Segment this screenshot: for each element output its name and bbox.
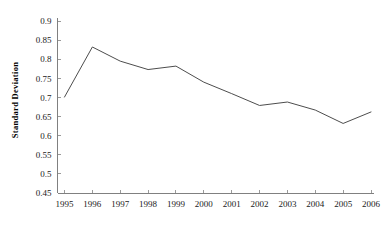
y-axis-tick-label: 0.6 <box>40 131 52 141</box>
y-axis-tick-label: 0.45 <box>36 188 52 198</box>
y-axis-tick-label: 0.5 <box>40 169 52 179</box>
x-axis-tick-label: 1998 <box>139 199 158 209</box>
x-axis-tick-label: 1996 <box>83 199 102 209</box>
y-axis-tick-labels: 0.450.50.550.60.650.70.750.80.850.9 <box>36 16 52 198</box>
y-axis-tick-label: 0.75 <box>36 74 52 84</box>
x-axis-tick-labels: 1995199619971998199920002001200220032004… <box>56 199 381 209</box>
y-axis-tick-label: 0.7 <box>40 93 52 103</box>
x-axis-tick-label: 1995 <box>56 199 75 209</box>
y-axis-tick-label: 0.85 <box>36 35 52 45</box>
y-axis-tick-label: 0.65 <box>36 112 52 122</box>
chart-figure: Standard Deviation 0.450.50.550.60.650.7… <box>0 0 384 226</box>
line-chart-plot: 0.450.50.550.60.650.70.750.80.850.9 1995… <box>0 0 384 226</box>
x-axis-tick-label: 1997 <box>111 199 130 209</box>
x-axis-tick-label: 1999 <box>167 199 186 209</box>
x-axis-tick-label: 2006 <box>362 199 381 209</box>
y-axis-tick-label: 0.8 <box>40 54 52 64</box>
x-axis-tick-label: 2000 <box>195 199 214 209</box>
y-axis-tick-label: 0.55 <box>36 150 52 160</box>
data-series-line <box>65 47 372 123</box>
x-axis-tick-label: 2004 <box>306 199 325 209</box>
x-axis-tick-label: 2002 <box>251 199 269 209</box>
x-axis-tick-label: 2001 <box>223 199 241 209</box>
x-axis-tick-label: 2003 <box>278 199 297 209</box>
x-axis-tick-label: 2005 <box>334 199 353 209</box>
y-axis-tick-label: 0.9 <box>40 16 52 26</box>
